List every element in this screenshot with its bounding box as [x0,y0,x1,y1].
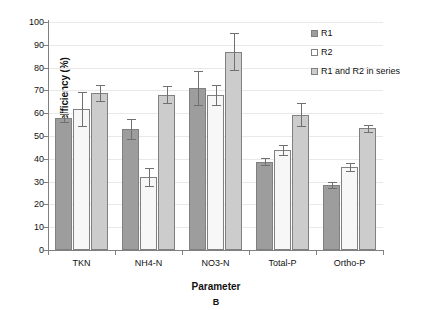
error-bar-cap-lower [127,139,136,140]
error-bar-cap-upper [127,119,136,120]
error-bar-cap-lower [364,132,373,133]
y-axis-tick-label: 0 [18,246,44,255]
x-axis-tick [115,250,116,255]
error-bar-cap-upper [78,92,87,93]
error-bar-line [265,158,266,166]
x-axis-tick [182,250,183,255]
error-bar-line [368,125,369,132]
bar-nh4-n-series-0 [122,129,139,250]
error-bar-line [216,85,217,105]
bar-nh4-n-series-1 [140,177,157,250]
error-bar-cap-lower [163,103,172,104]
legend-item-1: R2 [311,47,427,57]
x-axis-category-label-nh4-n: NH4-N [115,258,182,268]
legend-item-0: R1 [311,28,427,38]
bar-total-p-series-1 [274,150,291,250]
y-axis-tick-labels: 0102030405060708090100 [12,0,44,310]
error-bar-line [131,119,132,140]
x-axis-label: Parameter [48,281,384,292]
y-axis-tick-label: 80 [18,64,44,73]
x-axis-category-label-ortho-p: Ortho-P [316,258,383,268]
legend-label: R2 [321,47,333,57]
y-axis-tick-label: 10 [18,223,44,232]
y-axis-tick [44,204,49,205]
error-bar-cap-upper [212,85,221,86]
error-bar-cap-lower [212,105,221,106]
error-bar-cap-lower [328,188,337,189]
x-axis-tick [249,250,250,255]
y-axis-tick [44,182,49,183]
error-bar-cap-upper [297,103,306,104]
error-bar-cap-upper [60,114,69,115]
legend-swatch-icon [311,30,318,37]
legend-item-2: R1 and R2 in series [311,66,427,76]
bar-total-p-series-2 [292,115,309,250]
bar-ortho-p-series-1 [341,167,358,250]
y-axis-tick-label: 20 [18,200,44,209]
bar-nh4-n-series-2 [158,95,175,250]
y-axis-tick [44,68,49,69]
chart-legend: R1R2R1 and R2 in series [311,28,427,85]
error-bar-cap-upper [346,163,355,164]
bar-total-p-series-0 [256,162,273,250]
error-bar-line [198,71,199,104]
y-axis-tick [44,113,49,114]
error-bar-line [283,145,284,155]
bar-ortho-p-series-0 [323,185,340,250]
bar-tkn-series-2 [91,93,108,250]
error-bar-cap-lower [297,126,306,127]
error-bar-line [301,103,302,126]
error-bar-cap-upper [261,158,270,159]
legend-label: R1 [321,28,333,38]
error-bar-cap-lower [261,165,270,166]
gridline [48,22,383,23]
error-bar-cap-upper [328,182,337,183]
x-axis-tick [316,250,317,255]
bar-no3-n-series-2 [225,52,242,250]
bar-ortho-p-series-2 [359,128,376,250]
x-axis-tick [383,250,384,255]
error-bar-cap-upper [364,125,373,126]
legend-swatch-icon [311,49,318,56]
error-bar-cap-upper [96,85,105,86]
y-axis-tick [44,250,49,251]
error-bar-line [149,168,150,185]
error-bar-cap-lower [194,105,203,106]
y-axis-tick [44,90,49,91]
bar-tkn-series-0 [55,118,72,250]
error-bar-cap-lower [145,186,154,187]
error-bar-cap-lower [96,101,105,102]
error-bar-cap-lower [279,155,288,156]
error-bar-line [350,163,351,171]
error-bar-cap-upper [163,86,172,87]
x-axis-category-label-total-p: Total-P [249,258,316,268]
error-bar-line [64,114,65,122]
error-bar-cap-lower [60,122,69,123]
y-axis-tick-label: 100 [18,18,44,27]
x-axis-category-label-no3-n: NO3-N [182,258,249,268]
error-bar-cap-upper [279,145,288,146]
y-axis-tick [44,159,49,160]
y-axis-tick [44,45,49,46]
bar-tkn-series-1 [73,109,90,250]
bar-no3-n-series-1 [207,95,224,250]
error-bar-line [234,33,235,70]
error-bar-cap-upper [230,33,239,34]
error-bar-cap-upper [145,168,154,169]
chart-figure: 0102030405060708090100 Removal efficienc… [0,0,429,310]
x-axis-category-label-tkn: TKN [48,258,115,268]
error-bar-cap-lower [78,126,87,127]
legend-swatch-icon [311,68,318,75]
legend-label: R1 and R2 in series [321,66,400,76]
panel-letter: B [48,297,384,307]
y-axis-tick-label: 70 [18,86,44,95]
y-axis-tick-label: 60 [18,109,44,118]
error-bar-cap-lower [230,70,239,71]
error-bar-line [167,86,168,103]
y-axis-tick-label: 50 [18,132,44,141]
x-axis-line [48,250,384,251]
y-axis-tick [44,227,49,228]
y-axis-tick-label: 30 [18,178,44,187]
bar-no3-n-series-0 [189,88,206,250]
error-bar-line [82,92,83,126]
